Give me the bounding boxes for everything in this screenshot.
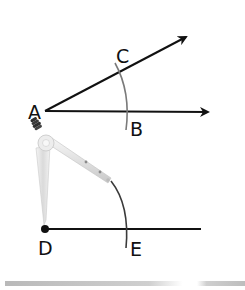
- label-E: E: [130, 240, 142, 259]
- compass-icon: [29, 116, 111, 233]
- compass-needle-leg: [36, 146, 50, 225]
- angle-construction-diagram: [0, 0, 245, 290]
- label-A: A: [28, 103, 41, 122]
- arc-E: [111, 181, 127, 248]
- label-C: C: [116, 47, 129, 66]
- label-D: D: [38, 239, 53, 258]
- page-bottom-shadow: [5, 281, 245, 286]
- label-B: B: [130, 120, 143, 139]
- point-D-dot: [41, 225, 49, 233]
